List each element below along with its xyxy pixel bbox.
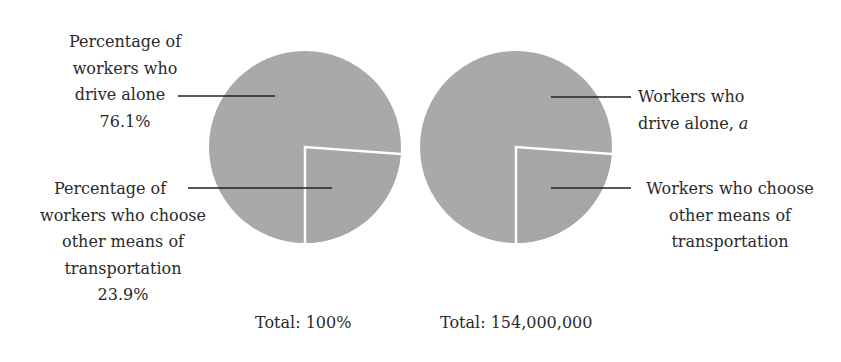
label-line: workers who choose [30,203,216,230]
label-line: Workers who [638,84,748,111]
label-line: other means of [30,229,216,256]
label-line: drive alone, a [638,111,748,138]
drive-alone-percent: 76.1% [50,109,200,136]
label-text: drive alone, [638,114,739,133]
right-total: Total: 154,000,000 [440,310,592,337]
left-other-label: Percentage of workers who choose other m… [30,176,216,309]
left-pie-other-slice [305,147,401,243]
right-pie [420,51,612,243]
label-line: drive alone [50,82,200,109]
label-line: Percentage of [50,29,200,56]
label-line: other means of [638,203,822,230]
label-line: Workers who choose [638,176,822,203]
right-pie-other-slice [516,147,612,243]
other-percent: 23.9% [30,282,216,309]
right-other-label: Workers who choose other means of transp… [638,176,822,256]
label-line: transportation [30,256,216,283]
left-total: Total: 100% [255,310,351,337]
variable-a: a [739,114,749,133]
left-pie [209,51,401,243]
right-drive-alone-label: Workers who drive alone, a [638,84,748,137]
label-line: workers who [50,56,200,83]
label-line: Percentage of [30,176,216,203]
left-drive-alone-label: Percentage of workers who drive alone 76… [50,29,200,135]
label-line: transportation [638,229,822,256]
